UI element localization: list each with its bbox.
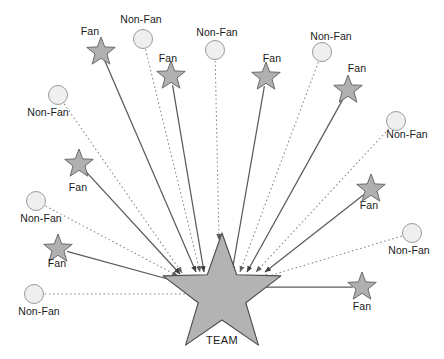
fan-connector-14 — [265, 195, 364, 272]
fan-star-7[interactable] — [334, 75, 363, 102]
fan-label-10: Fan — [69, 182, 87, 193]
fan-star-16[interactable] — [348, 272, 377, 299]
nonfan-label-13: Non-Fan — [18, 306, 60, 317]
fan-label-7: Fan — [348, 63, 366, 74]
nonfan-label-4: Non-Fan — [196, 27, 238, 38]
nonfan-label-2: Non-Fan — [120, 14, 162, 25]
nonfan-label-6: Non-Fan — [310, 31, 352, 42]
diagram-canvas — [0, 0, 444, 359]
center-team-star — [163, 233, 281, 345]
nonfan-label-8: Non-Fan — [386, 129, 428, 140]
center-star-layer — [163, 233, 281, 345]
nonfan-label-11: Non-Fan — [20, 213, 62, 224]
nonfan-label-9: Non-Fan — [27, 107, 69, 118]
fan-connector-3 — [173, 85, 204, 272]
fan-connector-1 — [105, 61, 196, 272]
fan-connector-5 — [232, 86, 264, 272]
fan-connector-7 — [247, 98, 343, 272]
nonfan-circle-2[interactable] — [134, 30, 153, 49]
fan-label-14: Fan — [360, 200, 378, 211]
fan-star-5[interactable] — [252, 62, 281, 89]
fan-label-1: Fan — [81, 26, 99, 37]
nonfan-circle-15[interactable] — [403, 224, 422, 243]
nonfan-circle-11[interactable] — [27, 192, 46, 211]
nonfan-connector-15 — [262, 236, 402, 278]
fan-label-5: Fan — [263, 53, 281, 64]
nonfan-circle-4[interactable] — [206, 41, 225, 60]
fan-label-12: Fan — [48, 258, 66, 269]
nonfan-circle-6[interactable] — [313, 43, 332, 62]
nonfan-circle-9[interactable] — [49, 86, 68, 105]
fan-network-diagram: FanNon-FanFanNon-FanFanNon-FanFanNon-Fan… — [0, 0, 444, 359]
fan-star-3[interactable] — [157, 61, 186, 88]
fan-star-10[interactable] — [65, 149, 94, 176]
nonfan-circle-13[interactable] — [25, 285, 44, 304]
fan-label-16: Fan — [353, 301, 371, 312]
nonfan-connector-4 — [215, 61, 219, 240]
fan-connector-10 — [85, 171, 180, 274]
fan-star-1[interactable] — [87, 37, 116, 64]
nonfan-label-15: Non-Fan — [388, 245, 430, 256]
fan-label-3: Fan — [159, 53, 177, 64]
center-team-label: TEAM — [206, 335, 238, 346]
nonfan-connector-6 — [240, 62, 318, 272]
